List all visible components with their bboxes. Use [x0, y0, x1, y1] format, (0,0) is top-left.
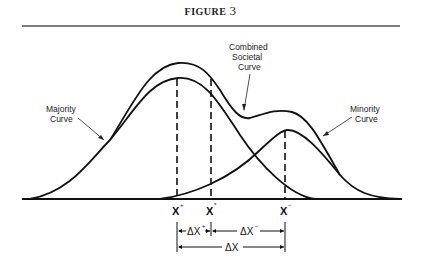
combined-label-line1: Combined	[229, 42, 268, 52]
delta-plus-sup: +	[202, 223, 206, 229]
x-minus-label: X	[280, 205, 288, 217]
minority-label-line2: Curve	[355, 114, 378, 124]
combined-label-line3: Curve	[238, 62, 261, 72]
arrowhead-right-icon	[280, 245, 284, 249]
x-minus-sup: −	[288, 202, 292, 208]
x-star-label: X	[206, 205, 214, 217]
minority-label-line1: Minority	[350, 104, 381, 114]
minority-arrowhead-icon	[323, 131, 329, 136]
delta-plus-label: ΔX	[187, 226, 201, 237]
arrowhead-left-icon	[212, 229, 216, 233]
distribution-diagram: Majority Curve Minority Curve Combined S…	[0, 0, 421, 266]
delta-total-label: ΔX	[225, 242, 239, 253]
majority-label-line1: Majority	[46, 104, 77, 114]
combined-arrowhead-icon	[242, 104, 246, 111]
x-plus-sup: +	[180, 202, 184, 208]
arrowhead-right-icon	[280, 229, 284, 233]
delta-minus-label: ΔX	[240, 226, 254, 237]
delta-minus-sup: −	[255, 223, 259, 229]
minority-curve	[160, 130, 400, 199]
combined-societal-curve	[110, 63, 340, 175]
arrowhead-left-icon	[178, 245, 182, 249]
x-star-sup: *	[214, 202, 217, 208]
majority-label-line2: Curve	[50, 114, 73, 124]
arrowhead-left-icon	[178, 229, 182, 233]
arrowhead-right-icon	[206, 229, 210, 233]
combined-label-line2: Societal	[232, 52, 262, 62]
x-plus-label: X	[172, 205, 180, 217]
